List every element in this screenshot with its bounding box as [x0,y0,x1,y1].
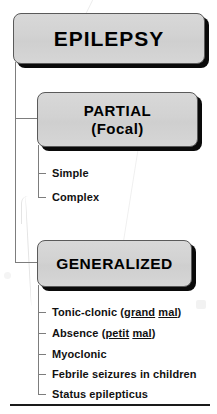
list-item-absence: Absence (petit mal) [52,327,155,339]
connector-to-generalized [15,262,38,263]
list-item-tonic-clonic-post: ) [178,306,182,318]
connector-to-partial [15,118,38,119]
node-partial-sublabel: (Focal) [91,120,144,137]
scan-artifact [4,272,11,279]
list-item-tonic-clonic-pre: Tonic-clonic ( [52,306,124,318]
tick-febrile [38,374,46,375]
node-partial: PARTIAL (Focal) [37,92,198,147]
list-item-simple: Simple [52,167,89,179]
list-item-complex: Complex [52,191,99,203]
node-generalized-label: GENERALIZED [56,255,173,273]
bracket-partial [38,145,39,197]
list-item-absence-em2: mal [132,327,151,339]
list-item-tonic-clonic: Tonic-clonic (grand mal) [52,306,181,318]
node-generalized: GENERALIZED [37,240,192,287]
tick-status [38,394,46,395]
list-item-tonic-clonic-em1: grand [124,306,155,318]
list-item-status: Status epilepticus [52,388,148,400]
tick-complex [38,197,46,198]
list-item-febrile: Febrile seizures in children [52,368,197,380]
scan-artifact [25,196,32,306]
bracket-generalized [38,285,39,394]
list-item-absence-pre: Absence ( [52,327,105,339]
node-partial-label: PARTIAL [84,102,151,119]
bottom-divider [10,404,210,406]
scan-artifact [196,300,206,309]
node-epilepsy: EPILEPSY [13,13,205,64]
list-item-absence-post: ) [152,327,156,339]
tick-tonic-clonic [38,312,46,313]
list-item-myoclonic: Myoclonic [52,348,107,360]
node-epilepsy-label: EPILEPSY [54,27,165,51]
tick-absence [38,333,46,334]
connector-trunk [15,62,16,263]
scan-artifact [21,196,28,224]
tick-myoclonic [38,354,46,355]
tick-simple [38,173,46,174]
diagram-canvas: EPILEPSY PARTIAL (Focal) Simple Complex … [0,0,217,414]
list-item-tonic-clonic-em2: mal [158,306,177,318]
list-item-absence-em1: petit [105,327,129,339]
